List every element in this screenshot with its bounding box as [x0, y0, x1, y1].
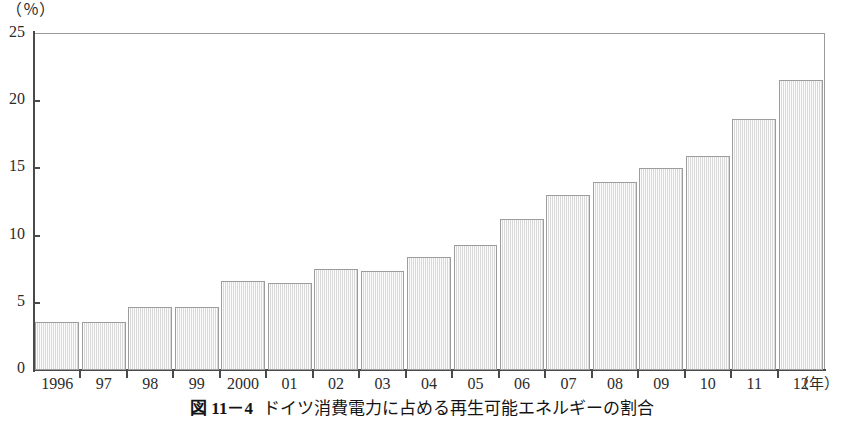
- x-axis-tick-mark: [637, 370, 639, 378]
- bar-slot: [268, 34, 312, 370]
- bar: [35, 322, 79, 370]
- bar: [314, 269, 358, 370]
- x-axis-unit-label: （年）: [794, 377, 839, 392]
- bar-slot: [128, 34, 172, 370]
- bar: [500, 219, 544, 370]
- x-axis-label: 06: [514, 376, 530, 392]
- x-axis-label: 98: [142, 376, 158, 392]
- x-axis-label: 05: [467, 376, 483, 392]
- bar-slot: [82, 34, 126, 370]
- bar: [639, 168, 683, 370]
- bar: [268, 283, 312, 370]
- x-axis-tick-mark: [730, 370, 732, 378]
- x-axis-label: 97: [96, 376, 112, 392]
- bar-slot: [732, 34, 776, 370]
- x-axis-tick-mark: [219, 370, 221, 378]
- figure-container: （％） 0510152025 1996979899200001020304050…: [0, 0, 844, 424]
- y-axis-tick-label: 25: [9, 24, 25, 40]
- bar: [407, 257, 451, 370]
- bar: [546, 195, 590, 370]
- x-axis-label: 1996: [41, 376, 73, 392]
- bar-slot: [35, 34, 79, 370]
- bar-slot: [500, 34, 544, 370]
- bar-slot: [454, 34, 498, 370]
- x-axis-tick-mark: [265, 370, 267, 378]
- bar-slot: [361, 34, 405, 370]
- x-axis-tick-mark: [451, 370, 453, 378]
- bar: [779, 80, 823, 370]
- x-axis-label: 04: [421, 376, 437, 392]
- y-axis-tick-label: 15: [9, 158, 25, 174]
- x-axis-label: 99: [189, 376, 205, 392]
- bars-group: [34, 34, 824, 370]
- bar: [175, 307, 219, 370]
- bar-slot: [639, 34, 683, 370]
- x-axis-tick-mark: [79, 370, 81, 378]
- bar-slot: [314, 34, 358, 370]
- x-axis-label: 07: [560, 376, 576, 392]
- figure-caption: 図 11－4ドイツ消費電力に占める再生可能エネルギーの割合: [0, 398, 844, 419]
- bar-slot: [221, 34, 265, 370]
- y-axis-tick-label: 10: [9, 226, 25, 242]
- x-axis-label: 01: [282, 376, 298, 392]
- y-axis-tick-label: 5: [17, 293, 25, 309]
- x-axis-label: 2000: [227, 376, 259, 392]
- bar: [221, 281, 265, 370]
- x-axis-tick-mark: [172, 370, 174, 378]
- bar-slot: [779, 34, 823, 370]
- bar: [593, 182, 637, 370]
- bar: [82, 322, 126, 370]
- y-axis-unit-label: （％）: [6, 2, 56, 18]
- x-axis-label: 11: [747, 376, 762, 392]
- x-axis-tick-mark: [358, 370, 360, 378]
- bar: [361, 271, 405, 370]
- bar-slot: [407, 34, 451, 370]
- y-axis-tick-label: 20: [9, 91, 25, 107]
- x-axis-tick-mark: [777, 370, 779, 378]
- bar: [454, 245, 498, 370]
- bar: [686, 156, 730, 370]
- x-axis-tick-mark: [405, 370, 407, 378]
- x-axis-tick-mark: [312, 370, 314, 378]
- x-axis-label: 10: [700, 376, 716, 392]
- x-axis-tick-mark: [498, 370, 500, 378]
- x-axis-label: 08: [607, 376, 623, 392]
- bar-slot: [593, 34, 637, 370]
- bar-slot: [175, 34, 219, 370]
- bar: [128, 307, 172, 370]
- x-axis-tick-mark: [591, 370, 593, 378]
- caption-text: ドイツ消費電力に占める再生可能エネルギーの割合: [263, 399, 654, 418]
- x-axis-label: 09: [653, 376, 669, 392]
- bar: [732, 119, 776, 370]
- x-axis-tick-mark: [684, 370, 686, 378]
- x-axis-tick-mark: [544, 370, 546, 378]
- x-axis-tick-mark: [126, 370, 128, 378]
- caption-number: 図 11－4: [190, 399, 253, 418]
- x-axis-label: 03: [375, 376, 391, 392]
- x-axis-label: 02: [328, 376, 344, 392]
- y-axis-tick-label: 0: [17, 360, 25, 376]
- bar-slot: [686, 34, 730, 370]
- bar-slot: [546, 34, 590, 370]
